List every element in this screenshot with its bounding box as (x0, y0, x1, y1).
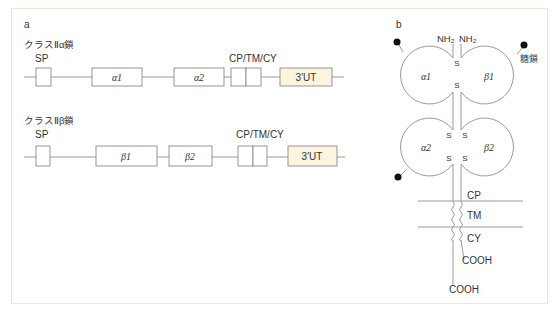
disulfide-s-beta1-bottom: S (454, 81, 459, 90)
cooh-alpha-label: COOH (449, 284, 479, 295)
alpha1-domain-label: α1 (421, 71, 431, 82)
glycan-alpha2-icon (395, 174, 402, 181)
beta-cy-exon (253, 146, 267, 166)
alpha-3utr-label: 3′UT (296, 72, 317, 83)
beta-sp-exon (36, 146, 50, 166)
beta2-domain-label: β2 (483, 142, 494, 153)
alpha1-label: α1 (112, 72, 122, 83)
panel-a-label: a (24, 19, 30, 30)
region-cy-label: CY (467, 233, 481, 244)
alpha-cp-tm-cy-label: CP/TM/CY (229, 53, 277, 64)
disulfide-s-beta2-bottom: S (462, 154, 467, 163)
nh2-beta-label: NH₂ (459, 33, 477, 44)
alpha-chain-title: クラスⅡα鎖 (24, 39, 75, 50)
disulfide-s-alpha2-top: S (446, 131, 451, 140)
disulfide-s-beta2-top: S (462, 131, 467, 140)
disulfide-s-alpha2-bottom: S (446, 154, 451, 163)
disulfide-s-beta1-top: S (454, 59, 459, 68)
beta-cp-tm-exon (238, 146, 253, 166)
beta-3utr-label: 3′UT (302, 151, 323, 162)
beta-cp-tm-cy-label: CP/TM/CY (236, 129, 284, 140)
region-cp-label: CP (467, 190, 481, 201)
glycan-alpha1-icon (394, 39, 401, 46)
beta-sp-label: SP (35, 129, 49, 140)
alpha2-label: α2 (194, 72, 204, 83)
alpha-cy-exon (246, 68, 261, 86)
beta-chain-gene: クラスⅡβ鎖 SP CP/TM/CY β1 β2 3′UT (24, 115, 345, 166)
alpha-tm-helix (452, 202, 455, 241)
beta1-domain-label: β1 (483, 71, 494, 82)
alpha-chain-gene: クラスⅡα鎖 SP CP/TM/CY α1 α2 3′UT (24, 39, 344, 86)
glycan-beta1-icon (521, 42, 528, 49)
alpha-sp-label: SP (35, 53, 49, 64)
beta-chain-title: クラスⅡβ鎖 (24, 115, 74, 126)
mhc-class-ii-diagram: a クラスⅡα鎖 SP CP/TM/CY α1 α2 3′UT クラスⅡβ鎖 S… (0, 0, 556, 312)
cooh-beta-label: COOH (462, 255, 492, 266)
nh2-alpha-label: NH₂ (437, 33, 455, 44)
alpha2-domain-label: α2 (421, 142, 431, 153)
panel-b-label: b (396, 19, 402, 30)
beta-tm-helix (460, 202, 463, 241)
beta1-label: β1 (120, 151, 131, 162)
glycan-label: 糖鎖 (520, 53, 538, 64)
region-tm-label: TM (467, 210, 481, 221)
alpha-cp-tm-exon (231, 68, 246, 86)
mhc-class-ii-protein: NH₂ NH₂ α1 β1 α2 β2 S S S S S S (394, 33, 539, 295)
beta2-label: β2 (184, 151, 195, 162)
alpha-sp-exon (36, 68, 51, 86)
